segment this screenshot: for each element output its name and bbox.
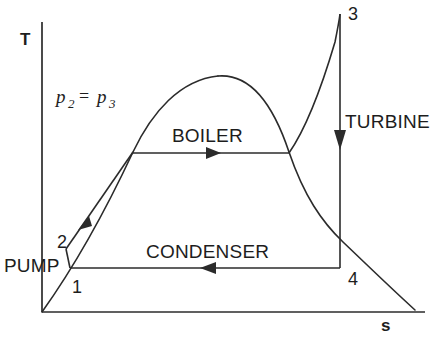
ts-diagram-figure: T s p 2 = p 3 PUMP BOILER CONDENSER TURB… xyxy=(0,0,440,347)
pressure-annotation: p 2 = p 3 xyxy=(54,86,116,111)
pressure-subscript-2: 2 xyxy=(68,96,75,111)
state-point-3-label: 3 xyxy=(348,4,358,24)
pressure-p-symbol-1: p xyxy=(54,86,66,107)
state-point-4-label: 4 xyxy=(348,269,358,289)
state-point-1-label: 1 xyxy=(72,277,82,297)
boiler-evaporation-arrow-head xyxy=(206,147,221,159)
condenser-process-group xyxy=(70,262,340,274)
ts-diagram-canvas: T s p 2 = p 3 PUMP BOILER CONDENSER TURB… xyxy=(0,0,440,347)
condenser-label: CONDENSER xyxy=(146,241,269,262)
temperature-axis-label: T xyxy=(20,30,31,49)
saturated-liquid-line xyxy=(42,76,218,312)
boiler-label: BOILER xyxy=(172,125,243,146)
turbine-process-group xyxy=(334,14,346,268)
pressure-equals-sign: = xyxy=(79,86,89,106)
pressure-p-symbol-2: p xyxy=(95,86,107,107)
boiler-superheat-line xyxy=(289,14,340,153)
turbine-arrow-head xyxy=(334,130,346,150)
pressure-subscript-3: 3 xyxy=(108,96,116,111)
boiler-liquid-heating-line xyxy=(66,152,133,249)
turbine-label: TURBINE xyxy=(345,111,430,132)
pump-label: PUMP xyxy=(4,255,60,276)
condenser-arrow-head xyxy=(200,262,216,274)
boiler-liquid-arrow-head xyxy=(78,216,92,230)
state-point-2-label: 2 xyxy=(57,232,67,252)
entropy-axis-label: s xyxy=(381,316,390,335)
